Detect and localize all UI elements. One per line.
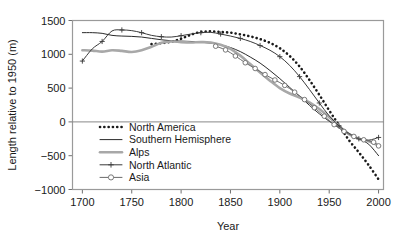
legend-label: North America bbox=[129, 121, 196, 133]
x-tick-label: 1850 bbox=[218, 196, 242, 208]
x-tick-label: 1900 bbox=[268, 196, 292, 208]
circle-marker bbox=[302, 97, 307, 102]
circle-marker bbox=[312, 105, 317, 110]
y-tick-label: 500 bbox=[47, 82, 65, 94]
legend-label: Southern Hemisphere bbox=[129, 133, 231, 145]
legend-label: Asia bbox=[129, 171, 150, 183]
x-tick-label: 1950 bbox=[317, 196, 341, 208]
circle-marker bbox=[342, 129, 347, 134]
legend-label: Alps bbox=[129, 146, 149, 158]
x-tick-label: 1800 bbox=[169, 196, 193, 208]
circle-marker bbox=[292, 90, 297, 95]
legend-label: North Atlantic bbox=[129, 159, 191, 171]
y-tick-label: 0 bbox=[59, 116, 65, 128]
y-tick-label: −500 bbox=[41, 150, 66, 162]
circle-marker bbox=[371, 140, 376, 145]
circle-marker bbox=[376, 144, 381, 149]
circle-marker bbox=[263, 72, 268, 77]
circle-marker bbox=[243, 60, 248, 65]
circle-marker bbox=[332, 122, 337, 127]
circle-marker bbox=[361, 138, 366, 143]
x-tick-label: 1700 bbox=[70, 196, 94, 208]
y-tick-label: 1000 bbox=[41, 48, 65, 60]
x-axis-title: Year bbox=[217, 220, 240, 232]
circle-marker bbox=[352, 134, 357, 139]
x-tick-label: 1750 bbox=[119, 196, 143, 208]
circle-marker bbox=[322, 114, 327, 119]
y-tick-label: 1500 bbox=[41, 15, 65, 27]
circle-marker bbox=[233, 54, 238, 59]
glacier-length-chart-figure: −1000−500050010001500 170017501800185019… bbox=[0, 0, 412, 238]
x-tick-label: 2000 bbox=[366, 196, 390, 208]
circle-marker bbox=[282, 83, 287, 88]
circle-marker bbox=[213, 44, 218, 49]
chart-canvas: −1000−500050010001500 170017501800185019… bbox=[0, 0, 412, 238]
y-axis-title: Length relative to 1950 (m) bbox=[6, 39, 18, 170]
circle-marker bbox=[253, 66, 258, 71]
circle-marker bbox=[223, 48, 228, 53]
circle-marker bbox=[273, 78, 278, 83]
y-tick-label: −1000 bbox=[35, 184, 66, 196]
